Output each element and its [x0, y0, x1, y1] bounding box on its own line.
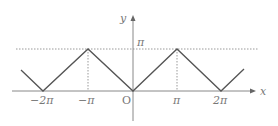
- x-tick-pi-label: π: [172, 94, 181, 107]
- graph-figure: y x π O −2π −π π 2π: [0, 0, 278, 126]
- graph-canvas: y x π O −2π −π π 2π: [0, 0, 278, 126]
- y-axis-arrow-icon: [131, 15, 136, 21]
- x-tick-neg-pi-label: −π: [78, 94, 95, 107]
- y-axis-label: y: [119, 12, 127, 25]
- origin-label: O: [122, 94, 131, 107]
- x-axis-label: x: [260, 85, 267, 98]
- y-tick-pi-label: π: [136, 36, 145, 49]
- x-axis-arrow-icon: [250, 89, 256, 94]
- x-tick-2pi-label: 2π: [212, 94, 228, 107]
- x-tick-neg-2pi-label: −2π: [30, 94, 54, 107]
